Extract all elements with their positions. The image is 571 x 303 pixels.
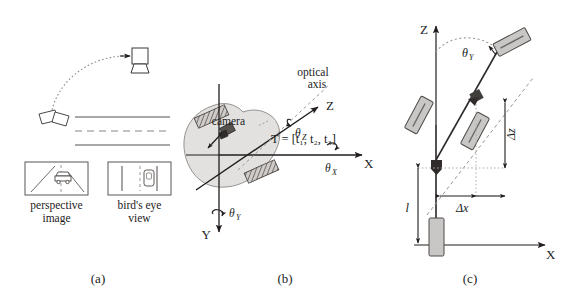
theta-y-label-c: θ Y	[462, 46, 475, 62]
perspective-image-caption-line1: perspective	[30, 199, 82, 212]
axis-z-label: Z	[326, 98, 334, 113]
vehicle-icon	[39, 110, 69, 126]
theta-x-symbol: θ	[325, 162, 331, 174]
theta-y-subscript-c: Y	[469, 53, 475, 62]
theta-y-curl-icon	[212, 210, 222, 216]
axis-y-label: Y	[202, 227, 212, 242]
theta-y-label: θ Y	[229, 207, 242, 222]
curved-arrow	[52, 56, 126, 110]
panel-letter-a: (a)	[91, 271, 105, 286]
perspective-image-caption-line2: image	[42, 212, 70, 225]
base-sensor-box	[429, 218, 444, 256]
theta-x-label: θ X	[325, 162, 338, 177]
perspective-image-thumb	[25, 162, 88, 195]
joint-marker-lower	[431, 160, 442, 175]
panel-letter-b: (b)	[277, 271, 292, 286]
delta-z-label: Δz	[504, 128, 518, 141]
figure-canvas: perspective image bird's eye view (a)	[0, 0, 571, 303]
optical-axis-label-line2: axis	[308, 78, 327, 90]
delta-x-label: Δx	[455, 201, 469, 215]
panel-b: optical axis camera Z X Y θ Z θ X θ Y T …	[184, 66, 374, 286]
axis-x-label: X	[364, 156, 374, 171]
panel-a: perspective image bird's eye view (a)	[25, 48, 171, 286]
axis-z-label-c: Z	[420, 22, 428, 37]
birds-eye-caption-line2: view	[128, 212, 151, 224]
joint-marker-upper	[468, 89, 484, 106]
birds-eye-view-thumb	[108, 162, 171, 195]
panel-c: Z X θ Y Δx Δz l (c)	[404, 22, 556, 286]
theta-x-subscript: X	[331, 168, 338, 177]
camera-icon	[131, 48, 149, 73]
panel-letter-c: (c)	[463, 271, 477, 286]
axis-x-label-c: X	[546, 247, 556, 262]
length-l-label: l	[406, 201, 410, 215]
camera-label: camera	[212, 115, 245, 127]
figure-root: perspective image bird's eye view (a)	[0, 0, 571, 303]
translation-vector-label: T = [t₁, t₂, t₃]	[271, 132, 336, 146]
theta-y-subscript: Y	[236, 213, 242, 222]
theta-y-symbol: θ	[229, 207, 235, 219]
birds-eye-caption-line1: bird's eye	[118, 199, 162, 212]
theta-y-symbol-c: θ	[462, 46, 468, 60]
